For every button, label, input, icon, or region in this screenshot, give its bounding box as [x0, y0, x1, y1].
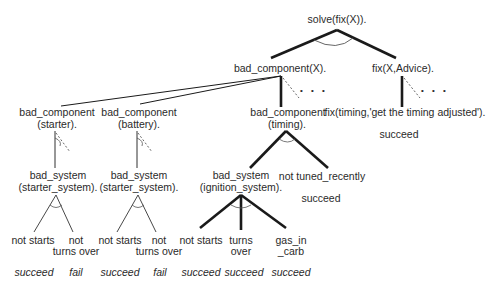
node-bs-starter-a-line2: (starter_system). [19, 181, 98, 193]
node-not-tuned-recently: not tuned_recently [279, 170, 365, 182]
node-bs-starter-b-line1: bad_system [111, 169, 168, 181]
node-bs-starter-b-line2: (starter_system). [100, 181, 179, 193]
node-fix-timing: fix(timing,'get the timing adjusted'). [325, 106, 486, 118]
root-edges [271, 30, 396, 58]
bad-component-x-edges [61, 76, 281, 106]
leaf-c1: not starts [179, 234, 222, 246]
result-not-tuned-recently: succeed [301, 192, 340, 204]
node-bc-battery-line2: (battery). [118, 118, 160, 130]
ellipsis-2: • • • [421, 85, 449, 97]
leaf-c3-line2: _carb [278, 245, 304, 257]
leaf-a2-line2: turns over [53, 245, 100, 257]
result-b1: succeed [100, 266, 139, 278]
leaf-c2-line2: over [231, 245, 251, 257]
node-bs-ignition-line1: bad_system [213, 169, 270, 181]
result-fix-timing: succeed [379, 128, 418, 140]
result-c3: succeed [271, 266, 310, 278]
node-bc-timing-line1: bad_component [250, 106, 325, 118]
result-c2: succeed [224, 266, 263, 278]
node-bad-component-x: bad_component(X). [234, 62, 326, 74]
fix-dashed-edge [404, 78, 420, 98]
node-fix-x-advice: fix(X,Advice). [372, 62, 434, 74]
ellipsis-1: • • • [300, 85, 328, 97]
node-bs-starter-a-line1: bad_system [30, 169, 87, 181]
result-b2: fail [153, 266, 166, 278]
leaf-b2-line2: turns over [136, 245, 183, 257]
node-bc-starter-line2: (starter). [37, 118, 77, 130]
node-bc-timing-line2: (timing). [268, 118, 306, 130]
node-bc-battery-line1: bad_component [101, 106, 176, 118]
result-a2: fail [69, 266, 82, 278]
node-bc-starter-line1: bad_component [19, 106, 94, 118]
bc-dashed-edge [283, 78, 299, 98]
leaf-a1: not starts [11, 234, 54, 246]
node-bs-ignition-line2: (ignition_system). [200, 181, 282, 193]
result-c1: succeed [181, 266, 220, 278]
and-arc-root [314, 38, 353, 46]
result-a1: succeed [14, 266, 53, 278]
node-root: solve(fix(X)). [308, 13, 367, 25]
